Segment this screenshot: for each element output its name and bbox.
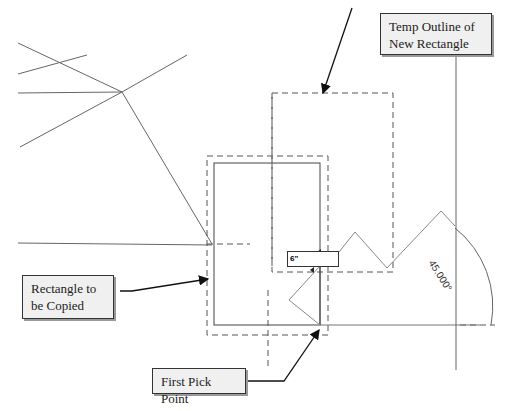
distance-input-value: 6" (290, 254, 298, 263)
callout-rectangle-to-copy-line2: be Copied (31, 297, 105, 314)
callout-temp-outline-line2: New Rectangle (389, 35, 483, 52)
construction-lines (207, 93, 495, 370)
original-rectangle-outline (207, 156, 328, 335)
callout-temp-outline: Temp Outline of New Rectangle (380, 13, 492, 55)
cad-drawing-canvas[interactable]: Temp Outline of New Rectangle Rectangle … (0, 0, 520, 411)
callout-rectangle-to-copy: Rectangle to be Copied (22, 275, 114, 319)
callout-rectangle-to-copy-line1: Rectangle to (31, 280, 105, 297)
callout-first-pick-point-label: First Pick Point (161, 373, 237, 407)
distance-input[interactable]: 6" (287, 251, 339, 267)
callout-temp-outline-line1: Temp Outline of (389, 18, 483, 35)
existing-linework (18, 43, 212, 245)
callout-first-pick-point: First Pick Point (152, 368, 246, 394)
drawing-geometry (0, 0, 520, 411)
angle-arc (455, 228, 493, 325)
temp-outline-rectangle (272, 93, 393, 272)
